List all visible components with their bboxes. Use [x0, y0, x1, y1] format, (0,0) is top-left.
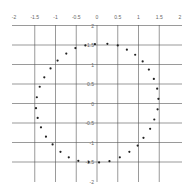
x-axis-ticks: -2-1.5-1-0.500.511.52 [12, 14, 182, 20]
data-point [35, 107, 37, 109]
y-tick-label: 1 [91, 62, 94, 68]
y-tick-label: 1.5 [87, 42, 94, 48]
data-point [77, 160, 79, 162]
data-point [74, 47, 76, 49]
data-point [65, 52, 67, 54]
data-point [157, 98, 159, 100]
data-point [148, 68, 150, 70]
data-point [51, 143, 53, 145]
data-point [37, 117, 39, 119]
x-tick-label: -1.5 [30, 14, 39, 20]
x-tick-label: -0.5 [72, 14, 81, 20]
x-tick-label: -1 [53, 14, 58, 20]
data-point [36, 96, 38, 98]
data-point [49, 67, 51, 69]
data-point [108, 160, 110, 162]
y-tick-label: -2 [90, 179, 95, 185]
y-tick-label: 2 [91, 23, 94, 29]
y-tick-label: -1 [90, 140, 95, 146]
data-point [39, 86, 41, 88]
data-point [56, 60, 58, 62]
data-point [156, 88, 158, 90]
data-point [45, 136, 47, 138]
data-point [43, 76, 45, 78]
data-point [156, 108, 158, 110]
x-tick-label: 0 [96, 14, 99, 20]
data-point [126, 49, 128, 51]
data-point [88, 161, 90, 163]
data-point [153, 78, 155, 80]
data-point [134, 54, 136, 56]
data-point [94, 43, 96, 45]
data-point [149, 128, 151, 130]
data-point [59, 151, 61, 153]
x-tick-label: 1 [137, 14, 140, 20]
data-point [137, 145, 139, 147]
y-tick-label: -0.5 [85, 120, 94, 126]
x-tick-label: 2 [179, 14, 182, 20]
grid-lines [12, 25, 182, 182]
data-point [68, 156, 70, 158]
data-point [142, 60, 144, 62]
data-point [40, 126, 42, 128]
data-point [153, 118, 155, 120]
data-point [106, 43, 108, 45]
x-tick-label: 0.5 [114, 14, 121, 20]
data-point [84, 44, 86, 46]
x-tick-label: -2 [12, 14, 17, 20]
data-point [142, 137, 144, 139]
data-point [119, 156, 121, 158]
data-point [117, 44, 119, 46]
x-tick-label: 1.5 [156, 14, 163, 20]
data-point [98, 161, 100, 163]
y-tick-label: 0.5 [87, 81, 94, 87]
y-tick-label: 0 [91, 101, 94, 107]
scatter-chart: -2-1.5-1-0.500.511.52 21.510.50-0.5-1-1.… [0, 0, 191, 191]
data-point [128, 151, 130, 153]
